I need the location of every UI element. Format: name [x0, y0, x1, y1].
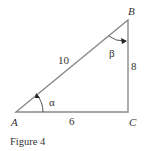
- side-label-ab: 10: [58, 54, 70, 66]
- angle-label-alpha: α: [49, 96, 55, 108]
- vertex-label-a: A: [10, 116, 18, 128]
- vertex-label-b: B: [128, 5, 135, 17]
- figure-caption: Figure 4: [10, 136, 46, 147]
- side-label-ac: 6: [69, 115, 75, 127]
- angle-beta-arrowhead-icon: [121, 38, 127, 44]
- vertex-label-c: C: [129, 116, 137, 128]
- triangle-abc: [16, 20, 128, 112]
- angle-label-beta: β: [109, 47, 115, 59]
- side-label-bc: 8: [131, 60, 137, 72]
- right-triangle-diagram: A B C 10 8 6 α β Figure 4: [0, 0, 147, 151]
